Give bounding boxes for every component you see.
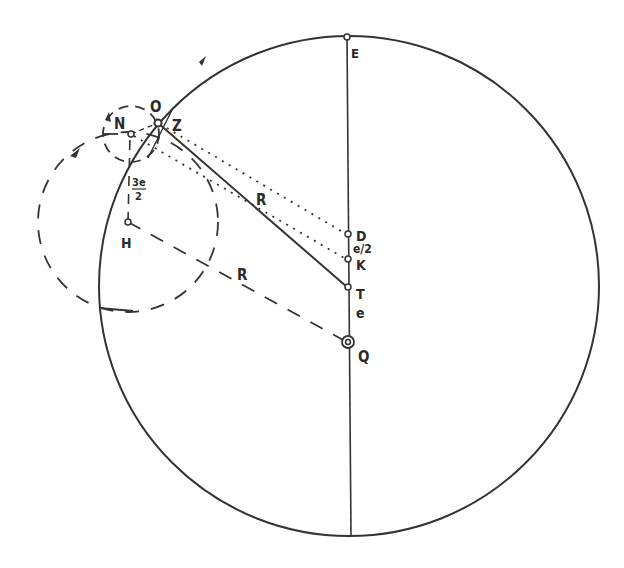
label-3e-denominator: 2 [135,190,142,203]
label-r-dashed: R [237,266,248,284]
point-h [125,219,131,225]
epicycle-arrow-icon [105,112,111,122]
label-n: N [114,115,125,133]
point-k [345,256,351,262]
point-n [128,131,134,137]
point-q-inner [346,340,351,345]
label-k: K [356,257,367,273]
diagram-canvas: E O Z N H D e/2 K T e Q R R 3e 2 [0,0,624,568]
label-h: H [121,235,132,251]
point-d [345,231,351,237]
label-r-solid: R [256,191,267,209]
point-t [345,284,351,290]
label-e-small: e [356,305,365,321]
label-e-half: e/2 [353,242,372,256]
label-z: Z [172,117,182,135]
label-3e-numerator: 3e [132,176,146,189]
point-e [344,34,350,40]
label-e: E [351,46,359,61]
label-q: Q [358,348,369,366]
dashed-line-hn [128,136,130,222]
label-t: T [356,286,365,302]
label-o: O [150,98,161,116]
direction-arrow-icon [199,56,206,66]
dotted-line-zd [160,124,346,234]
dotted-line-nk [134,136,346,259]
geometry-diagram: E O Z N H D e/2 K T e Q R R 3e 2 [0,0,624,568]
point-z [155,120,162,127]
